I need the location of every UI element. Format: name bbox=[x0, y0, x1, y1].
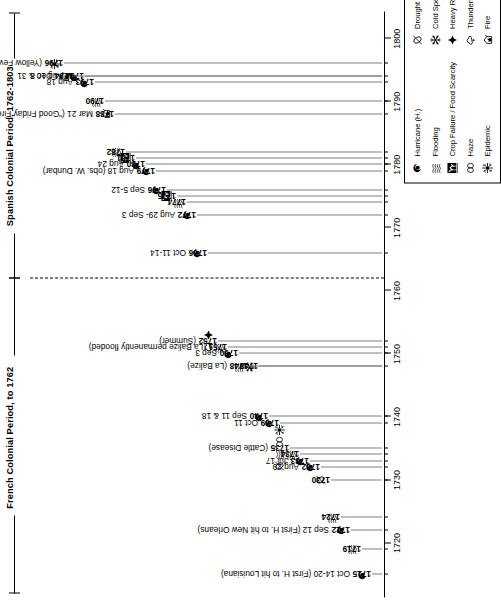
flooding-icon bbox=[430, 162, 441, 173]
event-detail-label: Sep 5-12 bbox=[111, 184, 145, 194]
legend-item-label: Epidemic bbox=[483, 125, 492, 156]
event-year-label: 1735 bbox=[270, 442, 288, 452]
event-leader-line bbox=[105, 100, 382, 101]
axis-tick-minor bbox=[384, 415, 388, 416]
legend-item: Crop Failure / Food Scarcity bbox=[446, 61, 459, 175]
event-detail-label: Aug 29- Sep 3 bbox=[122, 209, 175, 219]
legend-icon-slot bbox=[465, 32, 476, 47]
axis-tick-label: 1800 bbox=[392, 28, 402, 48]
event-detail-label: (Yellow Fever) bbox=[0, 57, 42, 67]
legend-item: Thunderstorms bbox=[464, 0, 477, 47]
event-leader-line bbox=[228, 346, 382, 347]
axis-tick-major bbox=[384, 289, 391, 290]
axis-tick-label: 1750 bbox=[392, 343, 402, 363]
axis-tick-label: 1760 bbox=[392, 280, 402, 300]
thunderstorms-icon bbox=[465, 34, 476, 45]
event-year-label: 1715 bbox=[353, 568, 371, 578]
event-leader-line bbox=[74, 75, 382, 76]
axis-tick-minor bbox=[384, 548, 388, 549]
axis-tick-major bbox=[384, 226, 391, 227]
epidemic-icon bbox=[482, 162, 493, 173]
axis-tick-minor bbox=[384, 163, 388, 164]
event-leader-line bbox=[197, 214, 382, 215]
legend-icon-slot bbox=[447, 32, 458, 47]
axis-tick-minor bbox=[384, 157, 388, 158]
axis-tick-minor bbox=[384, 214, 388, 215]
legend-icon-slot bbox=[465, 160, 476, 175]
hurricane-icon bbox=[412, 162, 423, 173]
legend-item-label: Hurricane (H.) bbox=[413, 108, 422, 156]
event-leader-line bbox=[239, 352, 382, 353]
event-detail-label: Oct 14-20 (First H. to hit Louisiana) bbox=[221, 568, 350, 578]
haze-icon bbox=[465, 162, 476, 173]
event-leader-line bbox=[95, 81, 382, 82]
legend-column: Drought Cold Spell Heavy Rain Thundersto… bbox=[411, 0, 494, 47]
event-year-label: 1752 bbox=[199, 335, 217, 345]
event-year-label: 1724 bbox=[322, 511, 340, 521]
drought-icon bbox=[274, 461, 285, 472]
legend-item-label: Cold Spell bbox=[431, 0, 440, 28]
event-year-label: 1790 bbox=[86, 95, 104, 105]
heavy-rain-icon bbox=[447, 34, 458, 45]
event-year-label: 1719 bbox=[342, 543, 360, 553]
legend-item-label: Flooding bbox=[431, 127, 440, 156]
axis-tick-minor bbox=[384, 81, 388, 82]
axis-tick-minor bbox=[384, 340, 388, 341]
event-detail-label: Sep 12 (First H. to hit New Orleans) bbox=[198, 524, 329, 534]
event-detail-label: Oct 11-14 bbox=[150, 247, 186, 257]
fire-icon bbox=[482, 34, 493, 45]
period-title: Spanish Colonial Period, 1762-1803 bbox=[5, 63, 15, 229]
event-leader-line bbox=[362, 548, 382, 549]
event-leader-line bbox=[64, 62, 382, 63]
legend-item-label: Drought bbox=[413, 1, 422, 28]
legend-item: Haze bbox=[464, 61, 477, 175]
event-leader-line bbox=[249, 365, 382, 366]
legend-item-label: Fire bbox=[483, 15, 492, 28]
axis-tick-minor bbox=[384, 447, 388, 448]
event-leader-line bbox=[331, 479, 382, 480]
axis-tick-label: 1720 bbox=[392, 533, 402, 553]
legend-item: Flooding bbox=[429, 61, 442, 175]
axis-tick-minor bbox=[384, 151, 388, 152]
axis-tick-minor bbox=[384, 100, 388, 101]
axis-tick-minor bbox=[384, 352, 388, 353]
axis-tick-minor bbox=[384, 453, 388, 454]
event-leader-line bbox=[269, 415, 382, 416]
event-leader-line bbox=[146, 163, 382, 164]
period-rule-left bbox=[14, 515, 15, 593]
legend-icon-slot bbox=[482, 160, 493, 175]
axis-tick-label: 1740 bbox=[392, 406, 402, 426]
axis-tick-label: 1770 bbox=[392, 217, 402, 237]
axis-tick-major bbox=[384, 37, 391, 38]
period-rule-right bbox=[14, 13, 15, 58]
period-end-tick bbox=[9, 12, 20, 13]
event-detail-label: (Cattle Disease) bbox=[208, 442, 267, 452]
axis-tick-minor bbox=[384, 189, 388, 190]
axis-tick-minor bbox=[384, 201, 388, 202]
legend-item: Hurricane (H.) bbox=[411, 61, 424, 175]
event-leader-line bbox=[351, 529, 382, 530]
axis-tick-minor bbox=[384, 365, 388, 366]
event-year-label: 1740 bbox=[250, 410, 268, 420]
axis-tick-major bbox=[384, 542, 391, 543]
legend-icon-slot bbox=[430, 160, 441, 175]
axis-tick-minor bbox=[384, 573, 388, 574]
cold-spell-icon bbox=[430, 34, 441, 45]
period-end-tick bbox=[9, 592, 20, 593]
event-year-label: 1796 bbox=[45, 57, 63, 67]
event-leader-line bbox=[372, 573, 382, 574]
legend-item: Drought bbox=[411, 0, 424, 47]
period-divider bbox=[30, 277, 384, 278]
period-end-tick bbox=[9, 277, 20, 278]
period-rule-right bbox=[14, 278, 15, 356]
event-detail-label: (Summer) bbox=[159, 335, 196, 345]
event-leader-line bbox=[290, 447, 382, 448]
legend-item-label: Heavy Rain bbox=[448, 0, 457, 28]
axis-tick-minor bbox=[384, 75, 388, 76]
event-leader-line bbox=[321, 466, 382, 467]
legend-icon-slot bbox=[412, 32, 423, 47]
event-leader-line bbox=[136, 157, 382, 158]
legend-icon-slot bbox=[482, 32, 493, 47]
event-leader-line bbox=[126, 151, 382, 152]
legend-item-label: Crop Failure / Food Scarcity bbox=[448, 61, 457, 156]
